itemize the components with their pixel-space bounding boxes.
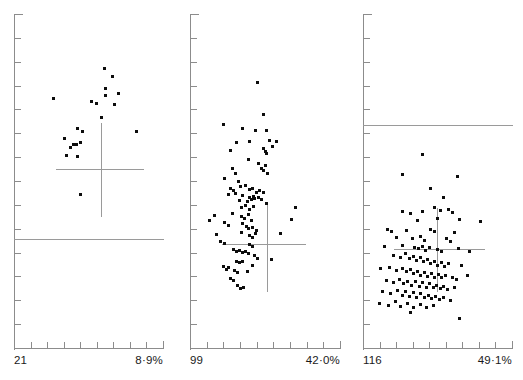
data-point bbox=[417, 247, 420, 250]
data-point bbox=[440, 276, 443, 279]
data-point bbox=[446, 288, 449, 291]
data-point bbox=[409, 212, 412, 215]
scatter-figure: 218·9%9942·0%11649·1% bbox=[0, 0, 523, 380]
sample-size-label: 116 bbox=[363, 354, 382, 366]
data-point bbox=[419, 303, 422, 306]
data-point bbox=[442, 296, 445, 299]
data-point bbox=[425, 286, 428, 289]
data-point bbox=[433, 206, 436, 209]
x-axis-tick bbox=[462, 342, 463, 348]
data-point bbox=[436, 248, 439, 251]
y-axis-tick bbox=[364, 181, 370, 182]
data-point bbox=[433, 260, 436, 263]
data-point bbox=[414, 280, 417, 283]
data-point bbox=[422, 260, 425, 263]
data-point bbox=[419, 235, 422, 238]
data-point bbox=[408, 295, 411, 298]
data-point bbox=[479, 220, 482, 223]
data-point bbox=[413, 246, 416, 249]
data-point bbox=[449, 299, 452, 302]
data-point bbox=[401, 267, 404, 270]
x-axis-tick bbox=[396, 342, 397, 348]
data-point bbox=[453, 286, 456, 289]
y-axis-tick bbox=[364, 205, 370, 206]
data-point bbox=[411, 237, 414, 240]
data-point bbox=[402, 282, 405, 285]
data-point bbox=[445, 237, 448, 240]
data-point bbox=[421, 210, 424, 213]
data-point bbox=[449, 240, 452, 243]
data-point bbox=[455, 278, 458, 281]
y-axis-tick bbox=[364, 86, 370, 87]
x-axis-line bbox=[363, 348, 513, 349]
data-point bbox=[429, 228, 432, 231]
data-point bbox=[387, 304, 390, 307]
data-point bbox=[419, 292, 422, 295]
data-point bbox=[428, 246, 431, 249]
data-point bbox=[457, 247, 460, 250]
data-point bbox=[430, 297, 433, 300]
data-point bbox=[444, 274, 447, 277]
x-axis-end-cap bbox=[512, 341, 513, 349]
y-axis-tick bbox=[364, 133, 370, 134]
data-point bbox=[458, 317, 461, 320]
data-point bbox=[460, 264, 463, 267]
scatter-panel-3: 11649·1% bbox=[0, 0, 523, 380]
data-point bbox=[451, 211, 454, 214]
data-point bbox=[438, 298, 441, 301]
data-point bbox=[395, 269, 398, 272]
data-point bbox=[458, 218, 461, 221]
data-point bbox=[425, 306, 428, 309]
y-axis-tick bbox=[364, 253, 370, 254]
data-point bbox=[451, 276, 454, 279]
data-point bbox=[423, 239, 426, 242]
x-axis-tick bbox=[446, 342, 447, 348]
data-point bbox=[421, 153, 424, 156]
x-axis-tick bbox=[495, 342, 496, 348]
data-point bbox=[416, 270, 419, 273]
x-axis-tick bbox=[380, 342, 381, 348]
y-axis-tick bbox=[364, 38, 370, 39]
data-point bbox=[383, 245, 386, 248]
data-point bbox=[419, 256, 422, 259]
y-axis-tick bbox=[364, 324, 370, 325]
data-point bbox=[429, 262, 432, 265]
data-point bbox=[434, 295, 437, 298]
data-point bbox=[433, 230, 436, 233]
y-axis-tick bbox=[364, 276, 370, 277]
y-axis-tick bbox=[364, 157, 370, 158]
data-point bbox=[408, 257, 411, 260]
data-point bbox=[423, 296, 426, 299]
y-axis-tick bbox=[364, 62, 370, 63]
data-point bbox=[412, 306, 415, 309]
data-point bbox=[392, 254, 395, 257]
data-point bbox=[412, 255, 415, 258]
data-point bbox=[453, 231, 456, 234]
y-axis-tick bbox=[364, 229, 370, 230]
data-point bbox=[381, 290, 384, 293]
data-point bbox=[378, 302, 381, 305]
data-point bbox=[442, 285, 445, 288]
x-axis-tick bbox=[413, 342, 414, 348]
data-point bbox=[386, 228, 389, 231]
data-point bbox=[406, 280, 409, 283]
data-point bbox=[412, 291, 415, 294]
data-point bbox=[426, 258, 429, 261]
data-point bbox=[396, 289, 399, 292]
data-point bbox=[395, 236, 398, 239]
data-point bbox=[440, 250, 443, 253]
data-point bbox=[405, 229, 408, 232]
y-axis-top-cap bbox=[363, 14, 372, 15]
data-point bbox=[443, 265, 446, 268]
data-point bbox=[415, 296, 418, 299]
data-point bbox=[409, 268, 412, 271]
data-point bbox=[421, 245, 424, 248]
data-point bbox=[410, 284, 413, 287]
data-point bbox=[418, 285, 421, 288]
data-point bbox=[432, 304, 435, 307]
reference-line bbox=[363, 125, 513, 126]
data-point bbox=[390, 230, 393, 233]
data-point bbox=[412, 272, 415, 275]
data-point bbox=[404, 252, 407, 255]
data-point bbox=[385, 279, 388, 282]
